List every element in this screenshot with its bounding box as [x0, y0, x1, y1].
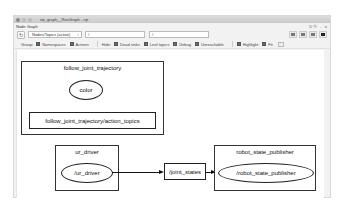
leaf-topics-checkbox[interactable]: Leaf topics: [144, 42, 169, 47]
unreachable-label: Unreachable: [201, 42, 224, 47]
topic-node-joint-states[interactable]: /joint_states: [164, 163, 206, 180]
window-title: rqt_graph__RosGraph - rqt: [40, 17, 88, 22]
chevron-updown-icon: ↕: [77, 32, 79, 37]
plugin-title: Node Graph: [16, 24, 38, 29]
close-window-button[interactable]: [16, 18, 20, 22]
node-filter-input[interactable]: /: [85, 31, 145, 38]
namespaces-checkbox[interactable]: Namespaces: [36, 42, 65, 47]
dead-sinks-label: Dead sinks: [120, 42, 140, 47]
cluster-follow-joint-trajectory[interactable]: follow_joint_trajectory color follow_joi…: [21, 61, 164, 135]
topic-node-color[interactable]: color: [69, 80, 103, 100]
dead-sinks-checkbox[interactable]: Dead sinks: [114, 42, 140, 47]
checkbox-checked-icon: [173, 42, 177, 46]
save-dot-icon: [301, 33, 305, 36]
separator: [97, 41, 98, 47]
fit-label: Fit: [268, 42, 272, 47]
plugin-window-controls[interactable]: D⓪ - o: [309, 23, 328, 29]
node-robot-state-publisher[interactable]: /robot_state_publisher: [218, 163, 314, 183]
load-dot-icon: [291, 33, 295, 36]
save-dot-button[interactable]: [299, 31, 307, 38]
minimize-window-button[interactable]: [22, 18, 26, 22]
checkbox-checked-icon: [70, 42, 74, 46]
options-bar: Group: Namespaces Actions Hide: Dead sin…: [14, 40, 330, 49]
cluster-robot-state-publisher[interactable]: robot_state_publisher /robot_state_publi…: [214, 145, 316, 191]
save-image-button[interactable]: [319, 31, 327, 38]
maximize-window-button[interactable]: [28, 18, 32, 22]
actions-label: Actions: [76, 42, 89, 47]
graph-toolbar: ↻ Nodes/Topics (active) ↕ / /: [14, 29, 330, 40]
group-label: Group:: [21, 42, 33, 47]
checkbox-checked-icon: [195, 42, 199, 46]
cluster-title: follow_joint_trajectory: [22, 65, 163, 71]
namespaces-label: Namespaces: [42, 42, 65, 47]
checkbox-checked-icon: [114, 42, 118, 46]
checkbox-checked-icon: [144, 42, 148, 46]
toolbar-file-actions: [287, 31, 327, 38]
unreachable-checkbox[interactable]: Unreachable: [195, 42, 224, 47]
highlight-checkbox[interactable]: Highlight: [237, 42, 259, 47]
save-image-icon: [321, 33, 325, 36]
refresh-icon: ↻: [19, 32, 23, 38]
cluster-title: ur_driver: [56, 149, 118, 155]
edge-ur-driver-to-joint-states: [112, 172, 162, 173]
fit-in-view-button[interactable]: [278, 42, 284, 47]
checkbox-checked-icon: [36, 42, 40, 46]
load-dot-button[interactable]: [289, 31, 297, 38]
cluster-ur-driver[interactable]: ur_driver /ur_driver: [55, 145, 119, 191]
fit-checkbox[interactable]: Fit: [262, 42, 272, 47]
graph-type-select[interactable]: Nodes/Topics (active) ↕: [28, 31, 82, 38]
checkbox-checked-icon: [262, 42, 266, 46]
save-svg-icon: [311, 33, 315, 36]
topic-group-action-topics[interactable]: follow_joint_trajectory/action_topics: [29, 112, 156, 129]
node-ur-driver[interactable]: /ur_driver: [61, 163, 113, 183]
topic-filter-input[interactable]: /: [149, 31, 209, 38]
debug-label: Debug: [179, 42, 191, 47]
checkbox-checked-icon: [237, 42, 241, 46]
debug-checkbox[interactable]: Debug: [173, 42, 191, 47]
graph-canvas[interactable]: follow_joint_trajectory color follow_joi…: [16, 50, 324, 198]
actions-checkbox[interactable]: Actions: [70, 42, 89, 47]
leaf-topics-label: Leaf topics: [150, 42, 169, 47]
highlight-label: Highlight: [243, 42, 259, 47]
hide-label: Hide:: [102, 42, 111, 47]
rqt-window: rqt_graph__RosGraph - rqt Node Graph D⓪ …: [13, 15, 331, 198]
graph-type-value: Nodes/Topics (active): [32, 32, 70, 37]
separator: [232, 41, 233, 47]
title-bar: rqt_graph__RosGraph - rqt: [14, 16, 330, 23]
save-svg-button[interactable]: [309, 31, 317, 38]
cluster-title: robot_state_publisher: [215, 149, 315, 155]
refresh-graph-button[interactable]: ↻: [17, 31, 25, 39]
